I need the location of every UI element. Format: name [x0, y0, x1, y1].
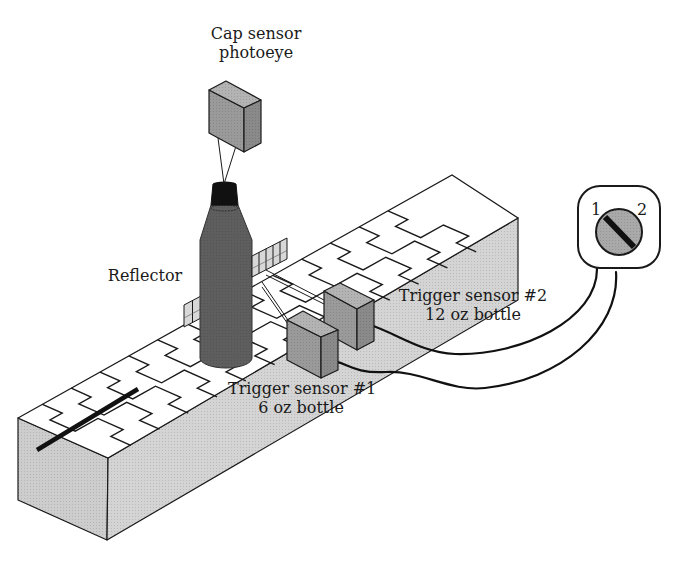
bottle [200, 182, 252, 369]
trigger-sensor-1-label-line1: Trigger sensor #1 [228, 379, 374, 398]
trigger-sensor-1-label-line2: 6 oz bottle [228, 398, 374, 417]
cap-sensor-beam [218, 138, 224, 184]
conveyor [18, 175, 518, 540]
selector-switch [578, 186, 660, 268]
trigger-sensor-2-label-line2: 12 oz bottle [398, 305, 548, 324]
cap-sensor-label: Cap sensor photoeye [196, 24, 316, 62]
trigger-sensor-2-label-line1: Trigger sensor #2 [398, 286, 548, 305]
bottle-cap [211, 184, 238, 205]
cap-sensor-label-line2: photoeye [196, 43, 316, 62]
switch-position-1: 1 [588, 200, 604, 219]
cap-sensor-label-line1: Cap sensor [196, 24, 316, 43]
reflector-label: Reflector [104, 266, 186, 285]
trigger-sensor-1-label: Trigger sensor #1 6 oz bottle [228, 379, 374, 417]
cap-sensor-beam [224, 146, 236, 184]
trigger-sensor-2-label: Trigger sensor #2 12 oz bottle [398, 286, 548, 324]
bottle-body-texture [200, 205, 252, 368]
trigger-sensor-1-side-texture [321, 330, 338, 378]
cap-sensor-side-texture [244, 100, 261, 152]
diagram-canvas: Cap sensor photoeye Reflector Trigger se… [0, 0, 698, 569]
switch-position-2: 2 [634, 200, 650, 219]
cap-sensor-photoeye [209, 81, 261, 152]
